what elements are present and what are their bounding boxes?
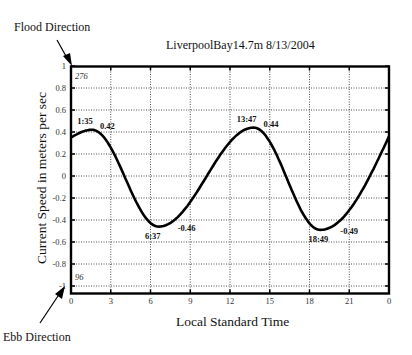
x-tick-label: 15: [266, 296, 275, 306]
extremum-value-label: 0.42: [100, 121, 115, 131]
y-tick-label: -0.2: [53, 193, 66, 203]
extremum-time-label: 1:35: [77, 116, 93, 126]
y-tick-label: 0.2: [55, 149, 66, 159]
y-tick-label: 0.8: [55, 83, 66, 93]
line-chart: 10.80.60.40.20-0.2-0.4-0.6-0.8-103691215…: [0, 0, 412, 355]
flood-direction-degrees: 276: [75, 71, 89, 81]
extremum-value-label: -0.46: [178, 223, 196, 233]
y-tick-label: 1: [62, 61, 66, 71]
x-tick-label: 21: [345, 296, 354, 306]
extremum-time-label: 13:47: [237, 114, 258, 124]
x-tick-label: 6: [148, 296, 152, 306]
ebb-arrow-icon: [40, 286, 65, 323]
extremum-time-label: 18:49: [308, 234, 328, 244]
x-tick-label: 9: [188, 296, 192, 306]
extremum-time-label: 6:37: [145, 231, 161, 241]
ebb-direction-degrees: 96: [75, 272, 84, 282]
grid-lines: [71, 67, 389, 294]
extremum-value-label: -0.49: [340, 226, 358, 236]
y-tick-label: -0.6: [53, 237, 66, 247]
y-tick-label: 0.6: [55, 105, 66, 115]
x-tick-label: 3: [109, 296, 113, 306]
extremum-value-label: 0.44: [264, 119, 280, 129]
x-tick-label: 18: [305, 296, 314, 306]
y-tick-label: -0.4: [53, 215, 67, 225]
extrema-annotations: 1:350.426:37-0.4613:470.4418:49-0.49: [77, 114, 358, 244]
x-tick-label: 0: [387, 296, 391, 306]
y-tick-label: -0.8: [53, 259, 66, 269]
x-tick-label: 12: [226, 296, 235, 306]
y-tick-label: 0.4: [55, 127, 66, 137]
x-tick-label: 0: [69, 296, 73, 306]
axis-ticks: 10.80.60.40.20-0.2-0.4-0.6-0.8-103691215…: [53, 61, 392, 306]
y-tick-label: 0: [62, 171, 66, 181]
